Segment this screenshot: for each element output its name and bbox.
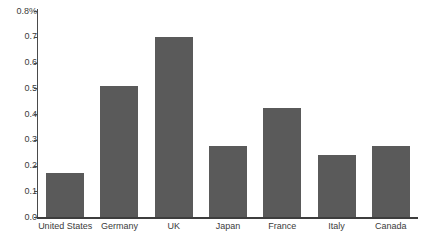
y-tick-label: 0.6 [3, 58, 37, 67]
bar[interactable] [209, 146, 247, 217]
y-tick-label: 0.0 [3, 213, 37, 222]
y-tick-mark [34, 191, 37, 192]
y-tick-label: 0.4 [3, 110, 37, 119]
bar[interactable] [263, 108, 301, 217]
y-tick-mark [34, 88, 37, 89]
bar-chart: 0.00.10.20.30.40.50.60.70.8% United Stat… [0, 0, 422, 244]
y-tick-label: 0.2 [3, 161, 37, 170]
y-axis-tick-labels: 0.00.10.20.30.40.50.60.70.8% [0, 0, 37, 244]
bar[interactable] [155, 37, 193, 217]
x-tick-label: Germany [101, 221, 138, 232]
x-tick-label: Japan [216, 221, 241, 232]
x-tick-label: Italy [328, 221, 345, 232]
bar-slot [201, 11, 255, 217]
y-tick-mark [34, 166, 37, 167]
x-tick-label: Canada [375, 221, 407, 232]
x-axis-baseline [37, 217, 418, 219]
x-tick-label: UK [167, 221, 180, 232]
y-tick-mark [34, 37, 37, 38]
y-tick-mark [34, 11, 37, 12]
bar[interactable] [100, 86, 138, 217]
bar-slot [309, 11, 363, 217]
bar-slot [147, 11, 201, 217]
y-tick-mark [34, 63, 37, 64]
bar[interactable] [372, 146, 410, 217]
y-tick-label: 0.7 [3, 32, 37, 41]
bar-slot [92, 11, 146, 217]
bar[interactable] [318, 155, 356, 217]
bar-slot [255, 11, 309, 217]
bar-slot [364, 11, 418, 217]
y-tick-mark [34, 140, 37, 141]
y-tick-label: 0.5 [3, 84, 37, 93]
y-tick-label: 0.3 [3, 135, 37, 144]
y-tick-mark [34, 114, 37, 115]
bar[interactable] [46, 173, 84, 217]
x-tick-label: United States [38, 221, 92, 232]
plot-area [38, 11, 418, 217]
y-tick-label: 0.1 [3, 187, 37, 196]
bar-slot [38, 11, 92, 217]
x-tick-label: France [268, 221, 296, 232]
x-axis-tick-labels: United StatesGermanyUKJapanFranceItalyCa… [38, 221, 418, 239]
y-tick-label: 0.8% [3, 7, 37, 16]
